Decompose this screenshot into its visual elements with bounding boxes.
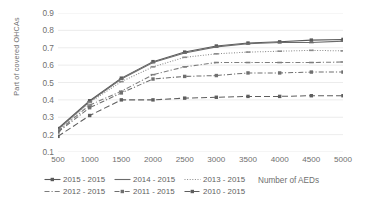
data-point-marker [151,77,154,80]
y-tick-label: 0.5 [30,78,54,88]
data-point-marker [341,70,343,73]
legend-swatch-icon [114,187,131,196]
series-line [58,96,343,137]
x-tick-label: 5000 [323,155,363,164]
legend-swatch-icon [44,175,61,184]
data-point-marker [151,98,154,101]
data-point-marker [120,98,123,101]
legend-item[interactable]: 2013 - 2015 [184,174,245,185]
y-tick-label: 0.7 [30,43,54,53]
data-point-marker [246,71,249,74]
legend-item[interactable]: 2010 - 2015 [184,186,245,197]
data-point-marker [88,114,91,117]
legend-swatch-icon [44,187,61,196]
data-point-marker [278,95,281,98]
y-tick-label: 0.8 [30,25,54,35]
series-line [58,41,343,129]
y-tick-label: 0.9 [30,8,54,18]
y-tick-label: 0.3 [30,112,54,122]
y-axis-title: Part of covered OHCAs [12,0,21,117]
legend-label: 2015 - 2015 [63,175,105,184]
legend-label: 2013 - 2015 [203,175,245,184]
gridlines [58,13,343,152]
y-axis-tick-labels: 0.90.80.70.60.50.40.30.20.1 [30,8,54,158]
legend-item[interactable]: 2014 - 2015 [114,174,175,185]
plot-svg [58,13,343,152]
series-5 [58,70,343,133]
legend-label: 2014 - 2015 [133,175,175,184]
data-point-marker [310,70,313,73]
y-tick-label: 0.2 [30,130,54,140]
legend-item[interactable]: 2015 - 2015 [44,174,105,185]
data-point-marker [310,38,313,41]
plot-area [58,13,343,152]
legend-label: 2010 - 2015 [203,187,245,196]
legend-swatch-icon [184,187,201,196]
series-line [58,39,343,128]
data-point-marker [183,75,186,78]
data-point-marker [215,96,218,99]
series-2 [58,41,343,129]
x-axis-tick-labels: 500100015002000250030003500400045005000 [58,155,343,169]
y-tick-label: 0.6 [30,60,54,70]
x-axis-title: Number of AEDs [258,176,319,185]
data-point-marker [278,71,281,74]
legend-swatch-icon [184,175,201,184]
chart-legend: 2015 - 20152014 - 20152013 - 20152012 - … [44,174,254,200]
data-point-marker [120,91,123,94]
data-point-marker [88,106,91,109]
data-point-marker [246,95,249,98]
data-point-marker [341,94,343,97]
data-point-marker [183,96,186,99]
legend-label: 2012 - 2015 [63,187,105,196]
legend-item[interactable]: 2011 - 2015 [114,186,175,197]
legend-item[interactable]: 2012 - 2015 [44,186,105,197]
data-point-marker [310,94,313,97]
line-chart: Part of covered OHCAs 0.90.80.70.60.50.4… [0,0,365,212]
series-line [58,72,343,132]
data-point-marker [215,74,218,77]
legend-swatch-icon [114,175,131,184]
data-point-marker [58,135,60,138]
data-point-marker [58,130,60,133]
y-tick-label: 0.4 [30,95,54,105]
legend-label: 2011 - 2015 [133,187,175,196]
series-1 [58,38,343,131]
